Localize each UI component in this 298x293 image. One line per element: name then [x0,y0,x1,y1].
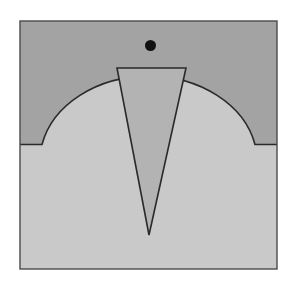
dot-marker [145,40,156,51]
diagram-figure [0,0,298,293]
diagram-canvas [0,0,298,293]
